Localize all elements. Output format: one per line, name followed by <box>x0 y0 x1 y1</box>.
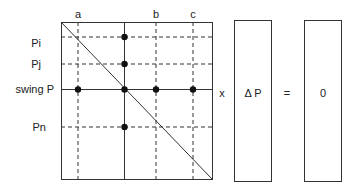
entry-dot-pj <box>121 61 127 67</box>
multiply-operator: x <box>215 87 229 99</box>
column-label-c: c <box>187 8 199 20</box>
entry-dot-swing-c <box>190 86 196 92</box>
zero-vector-box <box>305 21 342 182</box>
entry-dot-pn <box>121 124 127 130</box>
row-label-pj: Pj <box>0 58 41 70</box>
delta-p-label: Δ P <box>234 87 272 99</box>
entry-dot-swing-center <box>121 86 127 92</box>
delta-p-vector-box <box>235 21 272 182</box>
column-label-a: a <box>72 8 84 20</box>
entry-dot-swing-a <box>75 86 81 92</box>
matrix-diagonal <box>61 22 212 179</box>
equals-operator: = <box>280 87 294 99</box>
row-label-swing-p: swing P <box>0 83 54 95</box>
nonzero-entries <box>75 34 196 130</box>
zero-label: 0 <box>304 87 342 99</box>
solid-lines <box>61 21 342 182</box>
entry-dot-pi <box>121 34 127 40</box>
row-label-pn: Pn <box>0 121 46 133</box>
row-label-pi: Pi <box>0 37 41 49</box>
entry-dot-swing-b <box>153 86 159 92</box>
column-label-b: b <box>150 8 162 20</box>
